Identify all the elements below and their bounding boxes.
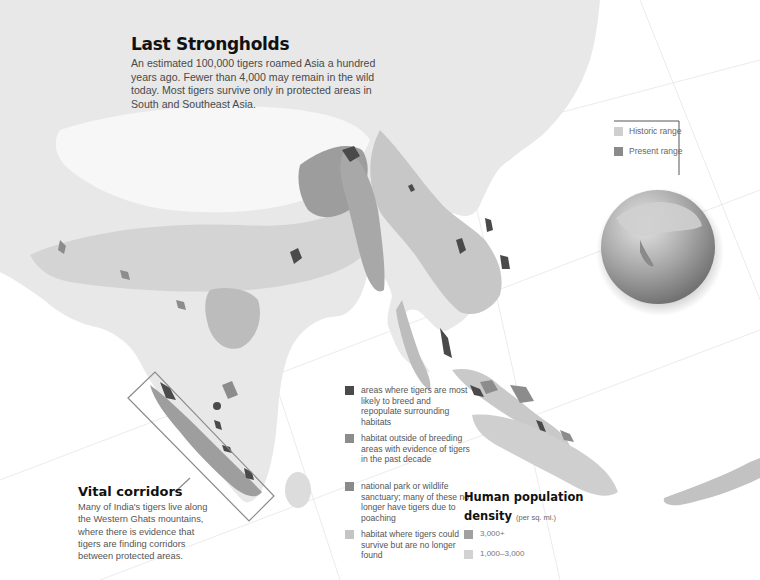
population-title-line2: density <box>464 509 512 523</box>
national-park-label: national park or wildlife sanctuary; man… <box>361 481 471 523</box>
population-high-swatch <box>464 530 473 539</box>
breeding-swatch <box>345 386 354 395</box>
map-figure: Last Strongholds An estimated 100,000 ti… <box>0 0 760 580</box>
population-unit: (per sq. mi.) <box>516 513 556 522</box>
historic-range-swatch <box>614 127 623 136</box>
corridors-description: Many of India's tigers live along the We… <box>78 501 218 562</box>
habitat-evidence-label: habitat outside of breeding areas with e… <box>361 433 471 465</box>
population-high-label: 3,000+ <box>480 529 505 538</box>
historic-range-label: Historic range <box>629 126 681 136</box>
sri-lanka <box>285 472 311 508</box>
map-description: An estimated 100,000 tigers roamed Asia … <box>131 57 381 111</box>
population-legend-title: Human population density (per sq. mi.) <box>464 488 604 527</box>
population-medium-label: 1,000–3,000 <box>480 549 525 558</box>
corridors-title: Vital corridors <box>78 484 183 499</box>
national-park-swatch <box>345 482 354 491</box>
population-title-line1: Human population <box>464 490 584 504</box>
map-title: Last Strongholds <box>131 34 289 54</box>
population-medium-swatch <box>464 550 473 559</box>
breeding-label: areas where tigers are most likely to br… <box>361 385 471 427</box>
lost-habitat-swatch <box>345 530 354 539</box>
present-range-label: Present range <box>629 146 682 156</box>
lost-habitat-label: habitat where tigers could survive but a… <box>361 529 471 561</box>
present-range-swatch <box>614 147 623 156</box>
habitat-evidence-swatch <box>345 434 354 443</box>
